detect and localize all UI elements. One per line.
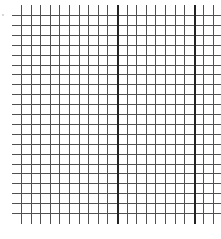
grid-vertical-line xyxy=(31,5,32,224)
grid-vertical-line xyxy=(184,5,185,224)
stray-mark xyxy=(2,14,4,16)
grid-vertical-line xyxy=(175,5,176,224)
grid-vertical-line xyxy=(21,5,22,224)
grid-vertical-line xyxy=(213,5,214,224)
grid-vertical-line xyxy=(194,5,196,224)
grid-vertical-line xyxy=(127,5,128,224)
grid-vertical-line xyxy=(69,5,70,224)
grid-vertical-line xyxy=(165,5,166,224)
grid-vertical-line xyxy=(50,5,51,224)
grid-vertical-line xyxy=(88,5,89,224)
grid-vertical-line xyxy=(203,5,204,224)
grid-paper xyxy=(0,0,221,239)
grid-vertical-line xyxy=(155,5,156,224)
grid-vertical-line xyxy=(136,5,137,224)
grid-vertical-line xyxy=(79,5,80,224)
grid-vertical-line xyxy=(107,5,108,224)
grid-vertical-line xyxy=(146,5,147,224)
grid-vertical-line xyxy=(98,5,99,224)
grid-vertical-line xyxy=(40,5,41,224)
grid-vertical-line xyxy=(117,5,119,224)
grid-vertical-line xyxy=(59,5,60,224)
